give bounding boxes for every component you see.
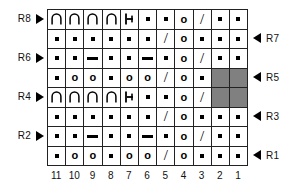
column-number: 7 (120, 170, 138, 181)
stitch-cell: o (139, 69, 157, 89)
stitch-cell: / (157, 30, 175, 50)
decrease-slash-symbol: / (164, 109, 168, 124)
knit-dot-symbol (109, 134, 113, 138)
stitch-cell (194, 30, 212, 50)
row-label-text: R8 (18, 13, 31, 24)
knitting-chart: o//oo/oooo/oo//oo/oooo/o 1110987654321 R… (0, 0, 297, 193)
column-number-axis: 1110987654321 (47, 170, 247, 181)
arch-symbol (106, 91, 117, 103)
row-direction-left-arrow-icon (253, 111, 261, 121)
stitch-cell (48, 49, 66, 69)
row-label-r5: R5 (253, 68, 279, 88)
yarn-over-symbol: o (126, 72, 133, 83)
stitch-cell: / (157, 69, 175, 89)
knit-dot-symbol (218, 134, 222, 138)
stitch-cell (230, 108, 248, 128)
stitch-cell (230, 30, 248, 50)
row-label-text: R1 (266, 150, 279, 161)
knit-dot-symbol (127, 56, 131, 60)
stitch-cell (48, 88, 66, 108)
stitch-cell (66, 88, 84, 108)
row-label-r7: R7 (253, 29, 279, 49)
knit-dot-symbol (55, 154, 59, 158)
yarn-over-symbol: o (90, 150, 97, 161)
stitch-cell (139, 108, 157, 128)
chart-row: /o (48, 108, 248, 128)
stitch-cell (121, 49, 139, 69)
yarn-over-symbol: o (144, 72, 151, 83)
decrease-slash-symbol: / (164, 31, 168, 46)
stitch-cell (194, 69, 212, 89)
stitch-cell (230, 147, 248, 167)
row-label-r8: R8 (18, 9, 44, 29)
knit-dot-symbol (218, 37, 222, 41)
stitch-cell (48, 108, 66, 128)
stitch-cell (212, 108, 230, 128)
knit-dot-symbol (164, 134, 168, 138)
stitch-cell (84, 10, 102, 30)
stitch-cell: / (194, 88, 212, 108)
stitch-cell (84, 49, 102, 69)
column-number: 5 (156, 170, 174, 181)
stitch-cell (84, 108, 102, 128)
stitch-cell (121, 10, 139, 30)
row-direction-right-arrow-icon (36, 53, 44, 63)
yarn-over-symbol: o (181, 111, 188, 122)
stitch-cell (66, 108, 84, 128)
purl-dash-symbol (142, 135, 153, 138)
stitch-cell (66, 30, 84, 50)
stitch-cell (48, 69, 66, 89)
knit-dot-symbol (109, 37, 113, 41)
yarn-over-symbol: o (181, 150, 188, 161)
stitch-cell (157, 88, 175, 108)
knit-dot-symbol (109, 56, 113, 60)
knit-dot-symbol (218, 115, 222, 119)
row-direction-left-arrow-icon (253, 150, 261, 160)
stitch-cell: / (194, 127, 212, 147)
bar-tee-symbol (124, 91, 134, 103)
stitch-cell (230, 49, 248, 69)
knit-dot-symbol (200, 37, 204, 41)
row-label-text: R4 (18, 91, 31, 102)
knit-dot-symbol (91, 37, 95, 41)
purl-dash-symbol (87, 135, 98, 138)
purl-dash-symbol (142, 57, 153, 60)
yarn-over-symbol: o (144, 150, 151, 161)
row-label-r4: R4 (18, 87, 44, 107)
knit-dot-symbol (73, 37, 77, 41)
stitch-cell: o (175, 49, 193, 69)
knit-dot-symbol (55, 76, 59, 80)
row-label-text: R2 (18, 130, 31, 141)
stitch-cell (121, 127, 139, 147)
stitch-cell (66, 127, 84, 147)
shaded-cell (230, 88, 248, 108)
stitch-cell (103, 127, 121, 147)
decrease-slash-symbol: / (200, 129, 204, 144)
yarn-over-symbol: o (181, 14, 188, 25)
knit-dot-symbol (73, 56, 77, 60)
column-number: 2 (211, 170, 229, 181)
row-label-text: R5 (266, 72, 279, 83)
stitch-cell (48, 10, 66, 30)
knit-dot-symbol (164, 95, 168, 99)
knit-dot-symbol (109, 115, 113, 119)
row-label-text: R6 (18, 52, 31, 63)
stitch-cell (48, 147, 66, 167)
stitch-cell: / (194, 10, 212, 30)
knit-dot-symbol (236, 154, 240, 158)
stitch-cell (48, 127, 66, 147)
row-label-text: R3 (266, 111, 279, 122)
stitch-cell (48, 30, 66, 50)
yarn-over-symbol: o (90, 72, 97, 83)
chart-row: o/ (48, 49, 248, 69)
row-direction-right-arrow-icon (36, 14, 44, 24)
decrease-slash-symbol: / (164, 70, 168, 85)
stitch-cell (121, 108, 139, 128)
column-number: 4 (174, 170, 192, 181)
knit-dot-symbol (55, 115, 59, 119)
knit-dot-symbol (127, 115, 131, 119)
column-number: 9 (83, 170, 101, 181)
chart-row: oooo/o (48, 147, 248, 167)
yarn-over-symbol: o (71, 72, 78, 83)
stitch-cell (157, 10, 175, 30)
